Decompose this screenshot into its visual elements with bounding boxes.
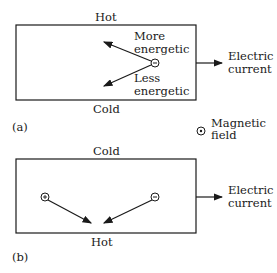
less-label: Less <box>134 71 160 85</box>
current-label-b: current <box>228 196 272 210</box>
current-label-a: current <box>228 62 272 76</box>
positive-charge-arrow <box>48 200 91 223</box>
panel-b-cold-label: Cold <box>93 144 120 158</box>
electric-label-a: Electric <box>228 49 274 63</box>
legend: Magnetic field <box>197 116 266 142</box>
panel-b: Cold Hot Electric current (b) <box>12 144 274 264</box>
less-energetic-label: energetic <box>134 84 189 98</box>
electric-label-b: Electric <box>228 183 274 197</box>
panel-a-tag: (a) <box>12 120 28 134</box>
negative-charge-icon <box>151 59 159 67</box>
positive-charge-icon <box>41 193 49 201</box>
magnetic-field-icon <box>197 127 205 135</box>
field-label: field <box>211 128 237 142</box>
diagram: Hot Cold More energetic Less energetic E… <box>0 0 277 273</box>
panel-a-hot-label: Hot <box>95 10 117 24</box>
negative-charge-icon <box>151 193 159 201</box>
panel-b-hot-label: Hot <box>91 235 113 249</box>
panel-b-tag: (b) <box>12 250 28 264</box>
more-label: More <box>134 29 165 43</box>
negative-charge-arrow <box>104 200 152 223</box>
panel-a-cold-label: Cold <box>93 102 120 116</box>
more-energetic-label: energetic <box>134 42 189 56</box>
